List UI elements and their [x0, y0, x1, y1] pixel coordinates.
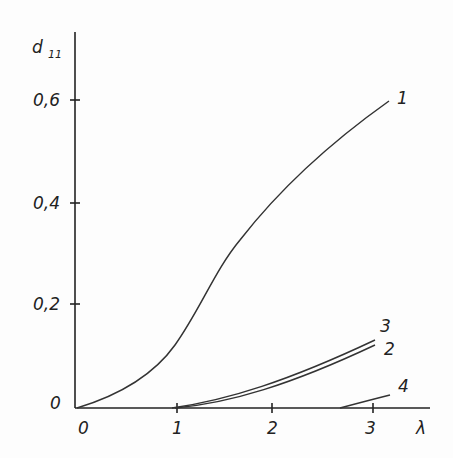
y-tick-0-4: 0,4 — [33, 193, 60, 213]
curve-3 — [172, 340, 375, 408]
x-tick-2: 2 — [267, 418, 278, 438]
plot-area: d 11 0,6 0,4 0,2 0 0 1 2 3 λ 1 2 3 4 — [0, 0, 453, 458]
y-axis-label: d — [32, 37, 43, 57]
x-tick-1: 1 — [172, 418, 183, 438]
x-tick-3: 3 — [365, 418, 376, 438]
curve-label-2: 2 — [384, 339, 395, 359]
x-axis-label: λ — [415, 418, 426, 438]
y-tick-0: 0 — [50, 393, 61, 413]
chart: d 11 0,6 0,4 0,2 0 0 1 2 3 λ 1 2 3 4 — [0, 0, 453, 458]
y-tick-0-2: 0,2 — [33, 294, 60, 314]
curve-4 — [340, 395, 390, 408]
curve-label-1: 1 — [397, 88, 408, 108]
y-axis-label-sub: 11 — [48, 48, 62, 61]
curve-1 — [77, 101, 389, 408]
curve-label-4: 4 — [398, 376, 409, 396]
y-tick-0-6: 0,6 — [33, 90, 60, 110]
curve-label-3: 3 — [380, 316, 391, 336]
x-tick-0: 0 — [78, 418, 89, 438]
